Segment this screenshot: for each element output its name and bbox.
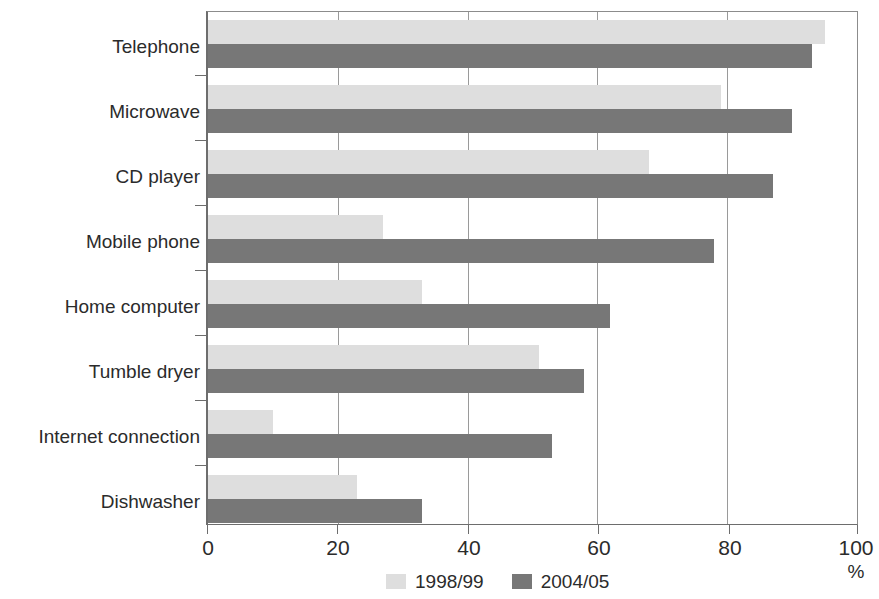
y-axis-label: Telephone — [4, 37, 200, 56]
y-axis-tick — [195, 75, 206, 76]
y-axis-tick — [195, 465, 206, 466]
y-axis-label: Dishwasher — [4, 492, 200, 511]
bar-mobile-phone-2004 — [208, 239, 714, 263]
legend-swatch-icon — [512, 574, 532, 589]
x-axis-tick-label: 60 — [587, 536, 610, 560]
y-axis-label: Microwave — [4, 102, 200, 121]
y-axis-label: CD player — [4, 167, 200, 186]
legend-item-1998-99: 1998/99 — [386, 572, 484, 591]
bar-microwave-1998 — [208, 85, 721, 109]
x-axis-tick — [207, 525, 208, 534]
bar-telephone-2004 — [208, 44, 812, 68]
legend-label: 2004/05 — [541, 572, 610, 591]
bar-telephone-1998 — [208, 20, 825, 44]
bar-tumble-dryer-1998 — [208, 345, 539, 369]
bar-dishwasher-2004 — [208, 499, 422, 523]
bar-tumble-dryer-2004 — [208, 369, 584, 393]
legend-item-2004-05: 2004/05 — [512, 572, 610, 591]
bar-home-computer-1998 — [208, 280, 422, 304]
x-axis-tick-label: 80 — [718, 536, 741, 560]
bar-chart: Telephone Microwave CD player Mobile pho… — [0, 0, 879, 599]
y-axis-tick — [195, 335, 206, 336]
y-axis-tick — [195, 140, 206, 141]
bar-internet-connection-2004 — [208, 434, 552, 458]
y-axis-tick — [195, 270, 206, 271]
bar-cd-player-2004 — [208, 174, 773, 198]
x-axis-tick — [598, 525, 599, 534]
y-axis-tick — [195, 205, 206, 206]
bar-cd-player-1998 — [208, 150, 649, 174]
x-axis-tick-label: 0 — [202, 536, 214, 560]
bar-mobile-phone-1998 — [208, 215, 383, 239]
x-axis-tick — [468, 525, 469, 534]
gridline-80 — [727, 12, 728, 524]
y-axis-label: Internet connection — [4, 427, 200, 446]
plot-area — [206, 11, 858, 525]
x-axis-tick-label: 100 — [838, 536, 873, 560]
x-axis-tick — [729, 525, 730, 534]
y-axis-label: Mobile phone — [4, 232, 200, 251]
y-axis-label: Tumble dryer — [4, 362, 200, 381]
legend-swatch-icon — [386, 574, 406, 589]
x-axis-tick — [337, 525, 338, 534]
legend-label: 1998/99 — [415, 572, 484, 591]
bar-internet-connection-1998 — [208, 410, 273, 434]
bar-dishwasher-1998 — [208, 475, 357, 499]
x-axis-tick-label: 20 — [326, 536, 349, 560]
x-axis-unit-label: % — [848, 561, 865, 582]
x-axis-tick — [857, 525, 858, 534]
chart-legend: 1998/99 2004/05 — [386, 570, 609, 592]
x-axis-tick-label: 40 — [457, 536, 480, 560]
y-axis-label: Home computer — [4, 297, 200, 316]
bar-microwave-2004 — [208, 109, 792, 133]
y-axis-labels: Telephone Microwave CD player Mobile pho… — [0, 11, 200, 525]
y-axis-tick — [195, 400, 206, 401]
bar-home-computer-2004 — [208, 304, 610, 328]
